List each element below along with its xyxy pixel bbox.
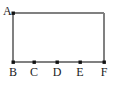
point-marker-f: [103, 61, 106, 64]
point-label-a: A: [3, 5, 12, 17]
point-marker-d: [56, 61, 59, 64]
rectangle-outline: [13, 13, 104, 62]
point-marker-c: [33, 61, 36, 64]
point-marker-e: [79, 61, 82, 64]
point-label-f: F: [101, 66, 108, 78]
point-label-d: D: [53, 66, 62, 78]
point-markers: [12, 12, 106, 64]
point-marker-b: [12, 61, 15, 64]
geometry-figure: A B C D E F: [0, 0, 114, 90]
point-label-c: C: [30, 66, 38, 78]
point-label-e: E: [76, 66, 83, 78]
point-marker-a: [12, 12, 15, 15]
point-label-b: B: [9, 66, 17, 78]
